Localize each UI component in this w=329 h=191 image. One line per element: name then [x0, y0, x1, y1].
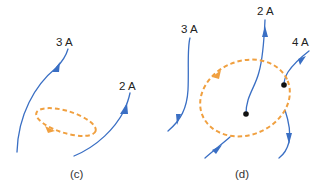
arrow-icon [176, 114, 181, 125]
current-label-3a: 3 A [181, 23, 198, 35]
current-label-2a: 2 A [119, 80, 136, 92]
arrow-icon [286, 133, 292, 144]
panel-c: 3 A 2 A (c) [17, 36, 136, 180]
current-label-3a: 3 A [56, 36, 73, 48]
arrow-icon [120, 103, 128, 114]
current-wire-2a [246, 20, 265, 114]
ampere-law-diagram: 3 A 2 A (c) 3 A 2 A 4 A [0, 0, 329, 191]
current-wire-2a [74, 93, 130, 156]
panel-d: 3 A 2 A 4 A (d) [168, 5, 309, 180]
arrow-icon [262, 26, 268, 37]
amperian-loop [188, 46, 301, 149]
current-label-4a: 4 A [292, 36, 309, 48]
current-wire-3a [17, 49, 68, 152]
amperian-loop [33, 102, 99, 141]
arrow-icon [212, 145, 222, 154]
current-wire-4a [284, 51, 309, 85]
current-label-2a: 2 A [257, 5, 274, 17]
wire-end-dot [281, 82, 287, 88]
wire-end-dot [243, 111, 249, 117]
arrow-icon [52, 62, 60, 72]
panel-caption: (c) [70, 168, 84, 180]
panel-caption: (d) [235, 168, 249, 180]
